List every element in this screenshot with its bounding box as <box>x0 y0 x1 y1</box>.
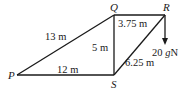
length-label-ps: 12 m <box>57 64 78 75</box>
point-label-q: Q <box>110 1 118 13</box>
framework-diagram: Q R S P 13 m 12 m 5 m 3.75 m 6.25 m 20 g… <box>0 0 190 97</box>
load-label: 20 gN <box>152 47 178 58</box>
length-label-qr: 3.75 m <box>118 18 147 29</box>
length-label-qs: 5 m <box>92 42 108 53</box>
point-label-s: S <box>111 78 117 90</box>
length-label-pq: 13 m <box>45 31 66 42</box>
point-label-r: R <box>162 1 170 13</box>
length-label-rs: 6.25 m <box>125 57 154 68</box>
point-label-p: P <box>7 69 15 81</box>
arrow-down-icon <box>162 38 168 45</box>
